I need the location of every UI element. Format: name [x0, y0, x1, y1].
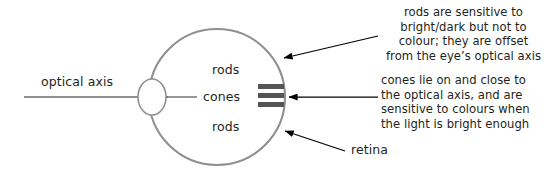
cone-bar: [258, 102, 284, 107]
rods-bottom-label: rods: [212, 121, 239, 134]
cones-annotation-text: cones lie on and close to the optical ax…: [381, 73, 548, 131]
retina-arrow: [285, 131, 345, 151]
rods-note-arrow: [284, 36, 378, 58]
cones-label: cones: [203, 91, 240, 104]
lens-ellipse: [138, 79, 166, 115]
cone-bar: [258, 84, 284, 89]
eye-diagram: optical axis rods cones rods retina rods…: [0, 0, 548, 173]
retina-label: retina: [351, 144, 388, 157]
rods-top-label: rods: [212, 64, 239, 77]
cone-bar: [258, 93, 284, 98]
optical-axis-label: optical axis: [41, 76, 113, 89]
rods-annotation-text: rods are sensitive to bright/dark but no…: [379, 5, 548, 63]
